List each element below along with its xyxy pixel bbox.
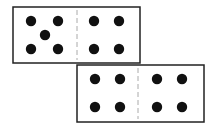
domino-2 [77,65,204,122]
domino-pip [177,102,187,112]
domino-pip [152,74,162,84]
domino-pip [90,102,100,112]
domino-pip [152,102,162,112]
domino-pip [26,16,36,26]
domino-pip [114,16,124,26]
domino-pip [53,44,63,54]
dominoes-figure [0,0,214,128]
domino-pip [53,16,63,26]
domino-1 [13,7,140,63]
domino-pip [115,102,125,112]
domino-pip [89,44,99,54]
domino-outline [77,65,204,122]
domino-pip [89,16,99,26]
domino-pip [114,44,124,54]
domino-pip [115,74,125,84]
domino-pip [40,30,50,40]
domino-pip [90,74,100,84]
domino-pip [26,44,36,54]
domino-pip [177,74,187,84]
